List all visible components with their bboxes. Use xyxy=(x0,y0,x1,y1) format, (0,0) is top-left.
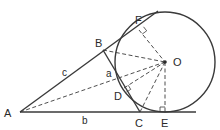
label-side-b: b xyxy=(82,115,88,126)
label-E: E xyxy=(161,117,168,129)
line-BO xyxy=(103,50,165,62)
right-angle-mark-F xyxy=(142,27,147,34)
label-side-c: c xyxy=(62,67,67,78)
label-B: B xyxy=(95,37,102,49)
label-side-a: a xyxy=(106,68,112,79)
label-F: F xyxy=(135,14,142,26)
label-C: C xyxy=(135,117,143,129)
excircle-diagram: A B C O D E F a b c xyxy=(0,0,220,130)
diagram-canvas: A B C O D E F a b c xyxy=(0,0,220,130)
label-D: D xyxy=(114,90,122,102)
line-AB-extended xyxy=(20,11,158,112)
line-OF xyxy=(139,30,165,62)
label-A: A xyxy=(4,107,12,119)
label-O: O xyxy=(173,56,182,68)
center-point-O xyxy=(163,60,167,64)
